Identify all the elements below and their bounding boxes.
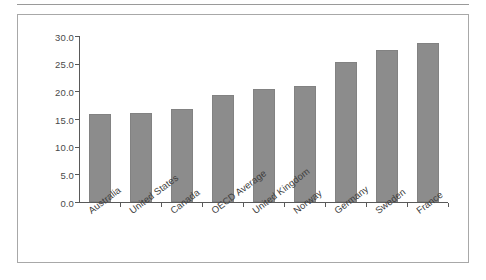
y-tick-mark bbox=[75, 119, 79, 120]
chart-frame: 0.05.010.015.020.025.030.0 AustraliaUnit… bbox=[17, 14, 469, 263]
bar bbox=[171, 109, 193, 202]
y-tick-label: 15.0 bbox=[55, 114, 74, 125]
y-tick-label: 0.0 bbox=[60, 197, 74, 208]
x-axis-category-labels: AustraliaUnited StatesCanadaOECD Average… bbox=[79, 203, 448, 263]
y-tick-mark bbox=[75, 91, 79, 92]
y-tick-mark bbox=[75, 36, 79, 37]
y-tick-label: 20.0 bbox=[55, 86, 74, 97]
chart-page: 0.05.010.015.020.025.030.0 AustraliaUnit… bbox=[0, 0, 486, 280]
bar bbox=[130, 113, 152, 202]
y-axis-tick: 10.0 bbox=[79, 147, 80, 148]
y-tick-label: 10.0 bbox=[55, 142, 74, 153]
y-tick-label: 25.0 bbox=[55, 59, 74, 70]
y-axis-tick: 5.0 bbox=[79, 174, 80, 175]
y-axis-tick: 15.0 bbox=[79, 119, 80, 120]
bar bbox=[89, 114, 111, 202]
bar bbox=[376, 50, 398, 202]
y-tick-mark bbox=[75, 147, 79, 148]
bar bbox=[212, 95, 234, 202]
y-tick-mark bbox=[75, 64, 79, 65]
bar bbox=[335, 62, 357, 202]
y-axis-tick: 20.0 bbox=[79, 91, 80, 92]
y-tick-label: 5.0 bbox=[60, 169, 74, 180]
y-tick-label: 30.0 bbox=[55, 31, 74, 42]
y-tick-mark bbox=[75, 174, 79, 175]
y-axis-tick: 30.0 bbox=[79, 36, 80, 37]
x-tick-mark bbox=[448, 203, 449, 207]
y-axis-tick: 25.0 bbox=[79, 64, 80, 65]
bar bbox=[417, 43, 439, 202]
top-divider-rule bbox=[17, 4, 469, 5]
